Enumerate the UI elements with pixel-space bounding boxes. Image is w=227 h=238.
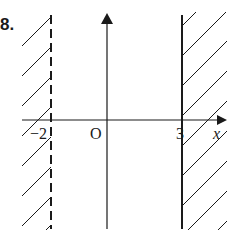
label-minus-two: −2 bbox=[30, 125, 47, 142]
x-axis-label: x bbox=[212, 125, 220, 142]
origin-label: O bbox=[90, 125, 102, 142]
problem-number: 8. bbox=[0, 15, 14, 34]
x-axis-arrow-icon bbox=[217, 115, 227, 125]
y-axis-arrow-icon bbox=[101, 13, 113, 24]
inequality-graph: 8. −2 O 3 x bbox=[0, 0, 227, 238]
label-three: 3 bbox=[176, 125, 184, 142]
